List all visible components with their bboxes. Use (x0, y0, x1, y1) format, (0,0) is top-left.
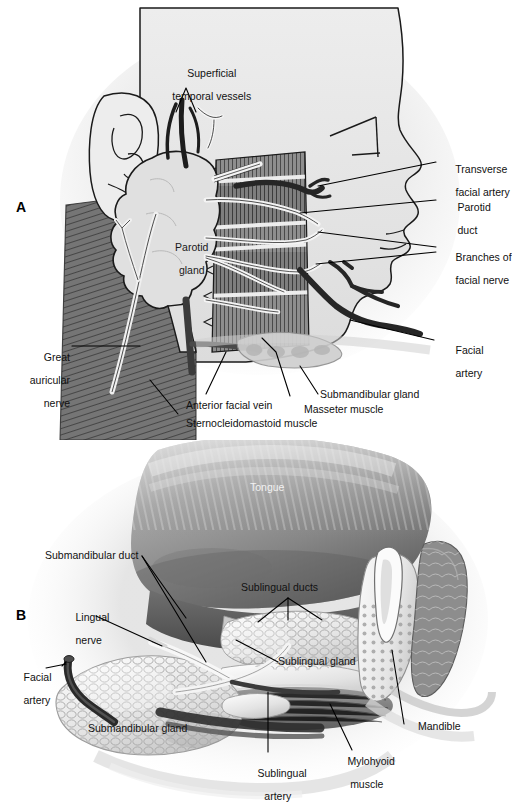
label-line: nerve (76, 634, 102, 646)
label-mylohyoid-muscle: Mylohyoid muscle (330, 744, 386, 802)
label-facial-artery: Facial artery (6, 660, 46, 718)
label-facial-artery: Facial artery (438, 333, 500, 391)
label-line: Great (44, 351, 70, 363)
label-line: Lingual (76, 611, 110, 623)
label-line: duct (458, 224, 478, 236)
label-line: Transverse (455, 163, 507, 175)
label-mandible: Mandible (418, 721, 461, 733)
label-parotid-gland: Parotid gland (152, 230, 214, 288)
label-sternocleidomastoid-muscle: Sternocleidomastoid muscle (186, 418, 317, 430)
label-branches-of-facial-nerve: Branches of facial nerve (438, 240, 504, 298)
label-line: Parotid (175, 241, 208, 253)
label-line: gland (179, 264, 205, 276)
label-line: artery (264, 790, 291, 802)
label-line: Branches of (456, 251, 512, 263)
label-sublingual-gland: Sublingual gland (278, 656, 356, 668)
label-line: Mylohyoid (348, 755, 395, 767)
label-superficial-temporal-vessels: Superficial temporal vessels (142, 56, 264, 114)
label-masseter-muscle: Masseter muscle (304, 404, 383, 416)
label-line: Parotid (458, 201, 491, 213)
label-anterior-facial-vein: Anterior facial vein (186, 400, 272, 412)
label-line: facial nerve (456, 274, 510, 286)
label-line: Sublingual (258, 767, 307, 779)
panel-a: A (0, 0, 504, 440)
label-line: artery (456, 367, 483, 379)
label-line: nerve (44, 397, 70, 409)
label-line: artery (24, 694, 51, 706)
label-sublingual-artery: Sublingual artery (240, 756, 298, 809)
label-submandibular-gland: Submandibular gland (320, 389, 419, 401)
label-lingual-nerve: Lingual nerve (58, 600, 98, 658)
label-line: Superficial (187, 67, 236, 79)
panel-b: B (0, 440, 504, 809)
label-sublingual-ducts: Sublingual ducts (241, 582, 318, 594)
label-line: muscle (350, 778, 383, 790)
label-submandibular-gland: Submandibular gland (88, 723, 187, 735)
label-submandibular-duct: Submandibular duct (45, 550, 138, 562)
label-line: Facial (24, 671, 52, 683)
label-line: auricular (30, 374, 70, 386)
label-great-auricular-nerve: Great auricular nerve (2, 340, 70, 421)
label-line: Facial (456, 344, 484, 356)
label-line: temporal vessels (172, 90, 251, 102)
label-tongue: Tongue (250, 482, 284, 494)
